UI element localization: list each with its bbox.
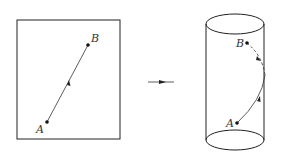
- helix-path-lower: [237, 75, 265, 123]
- point-b-plane: [86, 43, 90, 47]
- helix-path-upper: [247, 43, 265, 75]
- point-a-plane: [45, 120, 49, 124]
- point-b-cylinder: [245, 41, 249, 45]
- diagram-canvas: A B A B: [0, 0, 282, 156]
- label-b-plane: B: [90, 32, 99, 45]
- straight-path: [47, 45, 88, 122]
- label-b-cylinder: B: [235, 37, 244, 50]
- label-a-plane: A: [35, 123, 44, 136]
- point-a-cylinder: [235, 121, 239, 125]
- cylinder-top: [206, 14, 264, 34]
- mapping-arrow-icon: [159, 80, 166, 84]
- plane-rectangle: [17, 20, 120, 139]
- cylinder-bottom: [206, 130, 264, 150]
- label-a-cylinder: A: [225, 117, 234, 130]
